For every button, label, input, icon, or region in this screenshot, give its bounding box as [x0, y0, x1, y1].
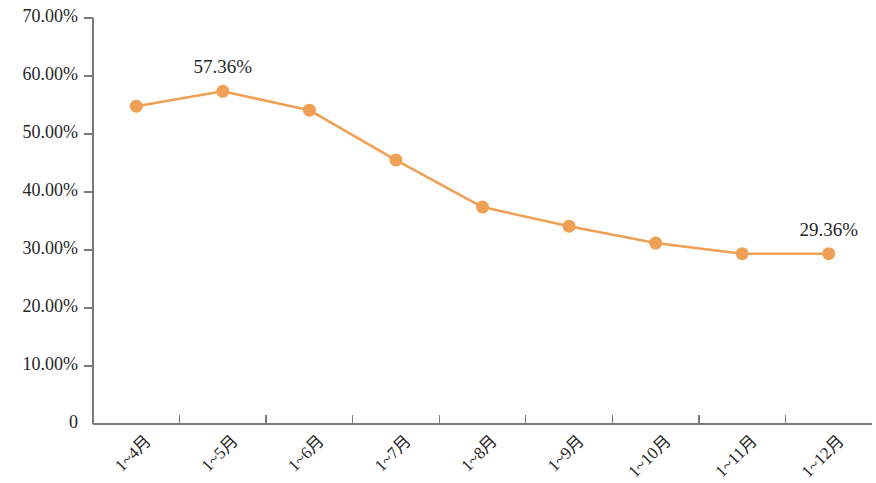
y-axis-label-70: 70.00% — [23, 6, 79, 26]
y-axis-label-30: 30.00% — [23, 238, 79, 258]
y-axis-label-60: 60.00% — [23, 64, 79, 84]
data-point-marker[interactable] — [563, 220, 576, 233]
y-axis-label-50: 50.00% — [23, 122, 79, 142]
line-chart-figure: 70.00% 60.00% 50.00% 40.00% 30.00% 20.00… — [0, 0, 876, 483]
data-point-label-8: 29.36% — [799, 219, 858, 240]
y-axis-label-20: 20.00% — [23, 296, 79, 316]
data-point-marker[interactable] — [389, 154, 402, 167]
data-point-marker[interactable] — [736, 247, 749, 260]
data-point-marker[interactable] — [649, 237, 662, 250]
data-point-marker[interactable] — [130, 100, 143, 113]
data-point-label-1: 57.36% — [194, 56, 253, 77]
data-point-marker[interactable] — [303, 104, 316, 117]
data-point-marker[interactable] — [476, 201, 489, 214]
data-point-marker[interactable] — [216, 85, 229, 98]
data-point-marker[interactable] — [822, 247, 835, 260]
y-axis-label-40: 40.00% — [23, 180, 79, 200]
y-axis-label-10: 10.00% — [23, 354, 79, 374]
y-axis-label-0: 0 — [69, 412, 78, 432]
chart-canvas: 70.00% 60.00% 50.00% 40.00% 30.00% 20.00… — [0, 0, 876, 483]
chart-background — [0, 0, 876, 483]
